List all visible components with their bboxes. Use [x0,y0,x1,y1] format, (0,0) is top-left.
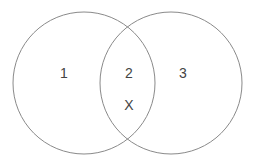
region-2-label: 2 [125,66,133,80]
right-circle [100,12,242,154]
region-3-label: 3 [179,66,187,80]
x-marker-label: X [124,98,133,112]
left-circle [13,12,155,154]
venn-diagram [0,0,255,167]
region-1-label: 1 [60,66,68,80]
